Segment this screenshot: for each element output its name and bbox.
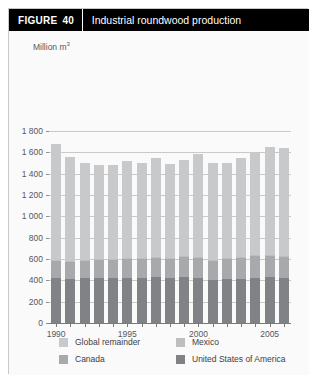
bar-2001 <box>208 163 218 323</box>
bar-segment <box>108 278 118 323</box>
bar-segment <box>80 163 90 260</box>
bar-2005 <box>265 147 275 323</box>
x-axis-tick <box>198 323 199 327</box>
y-axis-tick <box>46 259 49 260</box>
bar-2004 <box>250 152 260 323</box>
bar-segment <box>65 279 75 323</box>
bar-segment <box>94 260 104 278</box>
bar-segment <box>279 257 289 278</box>
legend-swatch-mexico <box>176 338 185 347</box>
legend-label-mexico: Mexico <box>192 337 219 347</box>
bar-1997 <box>151 158 161 323</box>
bar-segment <box>193 154 203 256</box>
bar-segment <box>250 152 260 255</box>
legend-item-mexico[interactable]: Mexico <box>176 337 219 347</box>
bar-segment <box>94 278 104 323</box>
chart-legend: Global remainder Mexico Canada United St… <box>59 337 299 371</box>
bar-segment <box>80 260 90 261</box>
bar-segment <box>193 257 203 258</box>
bar-segment <box>137 258 147 259</box>
bar-segment <box>208 163 218 260</box>
figure-title: Industrial roundwood production <box>92 14 241 26</box>
y-axis-tick <box>46 174 49 175</box>
gridline <box>49 131 291 132</box>
bar-segment <box>279 148 289 256</box>
bar-segment <box>236 257 246 258</box>
bar-segment <box>179 160 189 256</box>
bar-1994 <box>108 165 118 323</box>
bar-segment <box>179 257 189 277</box>
y-axis-tick-label: 600 <box>29 254 43 264</box>
bar-segment <box>222 258 232 278</box>
bar-segment <box>236 258 246 279</box>
legend-swatch-global-remainder <box>59 338 68 347</box>
x-axis-tick <box>227 323 228 327</box>
bar-2000 <box>193 154 203 323</box>
bar-segment <box>279 256 289 257</box>
bar-segment <box>108 259 118 260</box>
legend-item-global-remainder[interactable]: Global remainder <box>59 337 140 347</box>
bar-segment <box>65 157 75 261</box>
bar-segment <box>250 255 260 256</box>
bar-1993 <box>94 165 104 323</box>
bar-segment <box>51 278 61 323</box>
plot-area <box>49 131 291 323</box>
y-axis-tick <box>46 131 49 132</box>
y-axis-tick-label: 1 400 <box>22 169 43 179</box>
bar-segment <box>94 259 104 260</box>
bar-1991 <box>65 157 75 323</box>
x-axis-tick <box>170 323 171 327</box>
legend-label-usa: United States of America <box>192 354 286 364</box>
figure-card: FIGURE 40 Industrial roundwood productio… <box>8 8 308 374</box>
bar-segment <box>65 261 75 262</box>
bar-segment <box>151 257 161 277</box>
bar-segment <box>80 261 90 278</box>
bar-segment <box>208 260 218 261</box>
x-axis-tick <box>70 323 71 327</box>
y-axis-tick-label: 1 800 <box>22 126 43 136</box>
x-axis-tick <box>213 323 214 327</box>
bar-segment <box>250 256 260 278</box>
y-axis-tick <box>46 238 49 239</box>
chart-panel: Million m3 02004006008001 0001 2001 4001… <box>9 31 309 375</box>
legend-label-global-remainder: Global remainder <box>75 337 140 347</box>
legend-item-usa[interactable]: United States of America <box>176 354 286 364</box>
bar-segment <box>65 262 75 279</box>
bar-segment <box>137 163 147 258</box>
bar-segment <box>151 277 161 323</box>
y-axis-tick-label: 0 <box>38 318 43 328</box>
bar-segment <box>151 158 161 257</box>
bar-segment <box>108 260 118 279</box>
y-axis-tick-label: 1 000 <box>22 211 43 221</box>
bar-2003 <box>236 158 246 323</box>
bar-segment <box>222 163 232 258</box>
x-axis-tick <box>56 323 57 327</box>
bar-1996 <box>137 163 147 323</box>
x-axis-tick <box>85 323 86 327</box>
bar-segment <box>222 279 232 323</box>
bar-segment <box>236 158 246 258</box>
header-divider <box>82 9 83 31</box>
bar-segment <box>222 258 232 259</box>
bar-segment <box>122 258 132 277</box>
bar-1990 <box>51 144 61 323</box>
bar-segment <box>94 165 104 259</box>
y-axis-tick <box>46 152 49 153</box>
bar-segment <box>137 278 147 323</box>
bar-segment <box>208 280 218 323</box>
figure-header: FIGURE 40 Industrial roundwood productio… <box>9 9 309 31</box>
x-axis-tick <box>99 323 100 327</box>
x-axis-tick <box>113 323 114 327</box>
bar-segment <box>122 278 132 323</box>
bar-segment <box>265 277 275 323</box>
figure-tag-label: FIGURE <box>9 15 58 26</box>
y-axis-tick <box>46 280 49 281</box>
x-axis-tick <box>284 323 285 327</box>
bar-segment <box>151 257 161 258</box>
bar-segment <box>265 147 275 255</box>
bar-segment <box>122 161 132 258</box>
bar-1999 <box>179 160 189 323</box>
legend-item-canada[interactable]: Canada <box>59 354 105 364</box>
y-axis-tick <box>46 302 49 303</box>
bar-segment <box>137 258 147 277</box>
